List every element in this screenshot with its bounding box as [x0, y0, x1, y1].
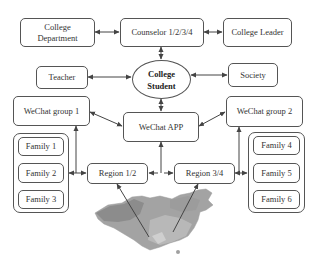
region-3-4-label: Region 3/4 — [186, 168, 224, 179]
society-label: Society — [240, 70, 266, 81]
counselor-node: Counselor 1/2/3/4 — [120, 18, 204, 47]
family-6-node: Family 6 — [253, 190, 300, 209]
college-student-node: College Student — [132, 60, 191, 99]
wechat-group-2-label: WeChat group 2 — [237, 106, 293, 117]
teacher-node: Teacher — [36, 66, 88, 89]
family-3-label: Family 3 — [26, 194, 56, 205]
society-node: Society — [228, 63, 278, 87]
family-5-label: Family 5 — [261, 168, 291, 179]
region-1-2-node: Region 1/2 — [87, 163, 148, 184]
family-6-label: Family 6 — [261, 194, 291, 205]
family-2-label: Family 2 — [26, 168, 56, 179]
family-2-node: Family 2 — [18, 163, 64, 183]
teacher-label: Teacher — [49, 72, 76, 83]
college-student-label: College Student — [142, 68, 182, 92]
wechat-app-label: WeChat APP — [139, 122, 183, 133]
wechat-group-1-node: WeChat group 1 — [13, 96, 90, 126]
wechat-group-1-label: WeChat group 1 — [24, 106, 80, 117]
wechat-group-2-node: WeChat group 2 — [226, 96, 303, 127]
wechat-app-node: WeChat APP — [123, 112, 199, 142]
family-4-node: Family 4 — [253, 136, 300, 155]
college-department-node: College Department — [20, 18, 95, 47]
family-1-node: Family 1 — [18, 137, 64, 156]
college-leader-node: College Leader — [223, 18, 292, 47]
college-leader-label: College Leader — [231, 27, 283, 38]
family-5-node: Family 5 — [253, 163, 300, 183]
region-3-4-node: Region 3/4 — [174, 163, 235, 184]
counselor-label: Counselor 1/2/3/4 — [131, 27, 192, 38]
family-1-label: Family 1 — [26, 141, 56, 152]
family-4-label: Family 4 — [261, 140, 291, 151]
college-department-label: College Department — [33, 22, 83, 44]
region-1-2-label: Region 1/2 — [99, 168, 137, 179]
family-3-node: Family 3 — [18, 190, 64, 209]
